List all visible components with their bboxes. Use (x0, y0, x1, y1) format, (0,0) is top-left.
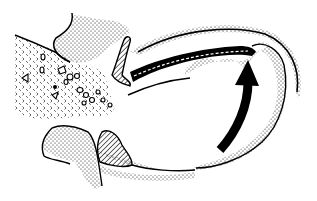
curved-arrow-icon (220, 60, 259, 150)
anatomical-diagram (0, 0, 317, 201)
channel-lower-edge (128, 78, 190, 95)
lower-hatched-mass (98, 131, 133, 167)
inner-right-tissue (185, 42, 286, 170)
upper-hatched-process (112, 37, 130, 86)
diagram-canvas (0, 0, 317, 201)
